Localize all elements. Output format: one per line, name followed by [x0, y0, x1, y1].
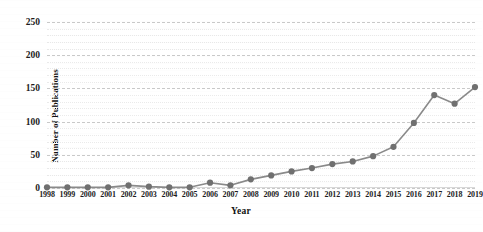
x-tick-label: 2000 — [80, 190, 96, 199]
gridline-major — [47, 188, 475, 189]
data-point-marker — [125, 182, 131, 188]
series-markers — [44, 84, 478, 190]
y-tick-label: 50 — [0, 150, 44, 160]
x-tick-label: 2001 — [100, 190, 116, 199]
x-tick-label: 2011 — [304, 190, 319, 199]
x-tick-label: 2009 — [263, 190, 279, 199]
plot-area — [47, 22, 475, 188]
x-tick-label: 2017 — [426, 190, 442, 199]
x-tick-label: 2003 — [141, 190, 157, 199]
y-tick-label: 0 — [0, 183, 44, 193]
x-tick-label: 2014 — [365, 190, 381, 199]
x-tick-label: 2005 — [182, 190, 198, 199]
data-point-marker — [288, 168, 294, 174]
x-axis-title: Year — [0, 206, 482, 216]
data-point-marker — [248, 176, 254, 182]
x-tick-label: 2019 — [467, 190, 483, 199]
x-tick-label: 2018 — [447, 190, 463, 199]
data-point-marker — [309, 165, 315, 171]
x-tick-label: 1998 — [39, 190, 55, 199]
series-line-path — [47, 87, 475, 187]
data-point-marker — [370, 153, 376, 159]
data-point-marker — [411, 120, 417, 126]
data-point-marker — [329, 161, 335, 167]
series-publications — [47, 22, 475, 188]
data-point-marker — [390, 144, 396, 150]
x-tick-label: 2002 — [121, 190, 137, 199]
y-tick-label: 250 — [0, 17, 44, 27]
data-point-marker — [452, 101, 458, 107]
x-tick-label: 1999 — [60, 190, 76, 199]
y-axis-tick-labels: 050100150200250 — [0, 0, 44, 232]
y-tick-label: 100 — [0, 117, 44, 127]
x-tick-label: 2004 — [161, 190, 177, 199]
x-tick-label: 2012 — [325, 190, 341, 199]
data-point-marker — [268, 172, 274, 178]
data-point-marker — [350, 158, 356, 164]
x-tick-label: 2016 — [406, 190, 422, 199]
data-point-marker — [146, 184, 152, 190]
x-tick-label: 2013 — [345, 190, 361, 199]
x-tick-label: 2015 — [386, 190, 402, 199]
data-point-marker — [227, 182, 233, 188]
x-tick-label: 2008 — [243, 190, 259, 199]
data-point-marker — [431, 92, 437, 98]
x-tick-label: 2010 — [284, 190, 300, 199]
data-point-marker — [472, 84, 478, 90]
x-axis-tick-labels: 1998199920002001200220032004200520062007… — [47, 190, 475, 206]
y-tick-label: 150 — [0, 83, 44, 93]
y-tick-label: 200 — [0, 50, 44, 60]
data-point-marker — [207, 180, 213, 186]
x-tick-label: 2006 — [202, 190, 218, 199]
x-tick-label: 2007 — [223, 190, 239, 199]
